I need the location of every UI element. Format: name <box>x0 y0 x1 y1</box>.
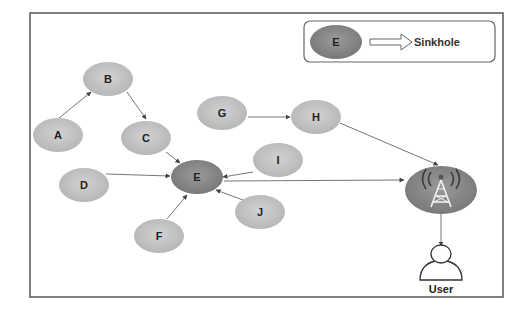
user-label: User <box>429 283 454 295</box>
node-b: B <box>83 62 133 96</box>
legend-label: Sinkhole <box>414 36 460 48</box>
node-f-label: F <box>156 230 163 242</box>
node-f: F <box>134 219 184 253</box>
legend-node-label: E <box>332 36 339 48</box>
node-d-label: D <box>80 179 88 191</box>
node-j: J <box>235 195 285 229</box>
node-e-sinkhole: E <box>171 160 223 194</box>
node-a: A <box>33 118 83 152</box>
sinkhole-network-diagram: E Sinkhole A B C D E F <box>0 0 532 318</box>
node-j-label: J <box>257 206 263 218</box>
node-g-label: G <box>218 107 227 119</box>
node-i-label: I <box>276 154 279 166</box>
legend: E Sinkhole <box>304 21 495 62</box>
node-h-label: H <box>312 111 320 123</box>
node-i: I <box>253 143 303 177</box>
node-d: D <box>59 168 109 202</box>
base-station <box>405 166 477 214</box>
node-b-label: B <box>104 73 112 85</box>
node-a-label: A <box>54 129 62 141</box>
node-g: G <box>197 96 247 130</box>
node-h: H <box>291 100 341 134</box>
node-c: C <box>121 121 171 155</box>
node-e-label: E <box>193 171 200 183</box>
node-c-label: C <box>142 132 150 144</box>
